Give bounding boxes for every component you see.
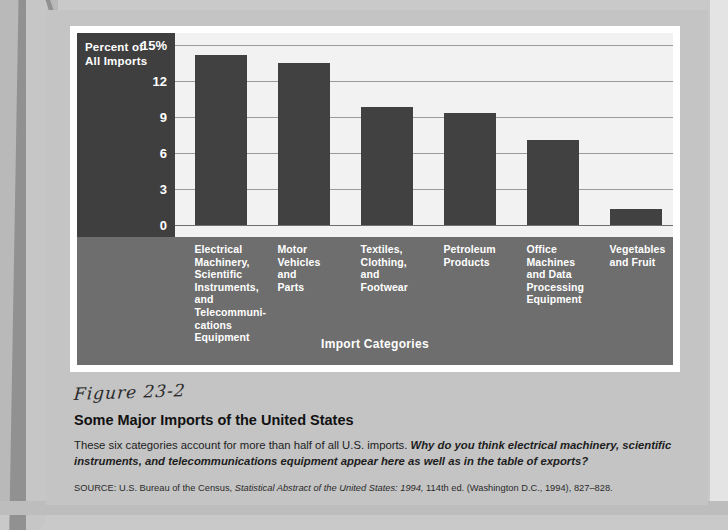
category-label-line: Electrical xyxy=(195,243,272,256)
gridline xyxy=(175,153,673,154)
y-axis-tick-12: 12 xyxy=(153,74,167,89)
gridline xyxy=(175,81,673,82)
bar-3 xyxy=(361,107,413,225)
gridline xyxy=(175,45,673,46)
category-label-line: and Data xyxy=(527,268,604,281)
y-axis-tick-6: 6 xyxy=(160,146,167,161)
source-suffix: 114th ed. (Washington D.C., 1994), 827–8… xyxy=(424,483,613,493)
category-label-line: Scientific xyxy=(195,268,272,281)
figure-source: SOURCE: U.S. Bureau of the Census, Stati… xyxy=(74,482,680,494)
category-label-line: and xyxy=(278,268,355,281)
source-prefix: SOURCE: U.S. Bureau of the Census, xyxy=(74,483,235,493)
category-label-line: Equipment xyxy=(527,293,604,306)
category-label-line: Office xyxy=(527,243,604,256)
page-right-margin xyxy=(710,0,728,515)
figure-caption: These six categories account for more th… xyxy=(74,438,680,469)
category-label-line: Instruments, xyxy=(195,281,272,294)
category-label-line: Machines xyxy=(527,256,604,269)
category-label-line: Vegetables xyxy=(610,243,674,256)
category-label-line: cations xyxy=(195,319,272,332)
bar-chart: Percent of All Imports 15%129630 Electri… xyxy=(77,33,673,365)
category-label-6: Vegetablesand Fruit xyxy=(610,243,674,268)
axis-baseline xyxy=(175,225,673,226)
category-label-1: ElectricalMachinery,ScientificInstrument… xyxy=(195,243,272,344)
category-label-2: MotorVehiclesandParts xyxy=(278,243,355,293)
y-axis-title-line-2: All Imports xyxy=(85,55,171,69)
category-label-line: Motor xyxy=(278,243,355,256)
gridline xyxy=(175,117,673,118)
category-label-line: and Fruit xyxy=(610,256,674,269)
category-label-line: and xyxy=(195,293,272,306)
y-axis-panel: Percent of All Imports 15%129630 xyxy=(77,33,175,237)
bar-5 xyxy=(527,140,579,225)
figure-number: Figure 23-2 xyxy=(73,380,186,404)
y-axis-tick-3: 3 xyxy=(160,182,167,197)
category-label-line: Vehicles xyxy=(278,256,355,269)
category-label-5: OfficeMachinesand DataProcessingEquipmen… xyxy=(527,243,604,306)
category-label-line: Petroleum xyxy=(444,243,521,256)
y-axis-tick-15: 15% xyxy=(141,38,167,53)
category-label-line: and xyxy=(361,268,438,281)
x-axis-title: Import Categories xyxy=(77,337,673,351)
chart-frame: Percent of All Imports 15%129630 Electri… xyxy=(70,26,680,372)
page-body: Percent of All Imports 15%129630 Electri… xyxy=(46,10,708,505)
source-title: Statistical Abstract of the United State… xyxy=(235,483,424,493)
plot-area xyxy=(175,33,673,237)
category-label-4: PetroleumProducts xyxy=(444,243,521,268)
bar-1 xyxy=(195,55,247,225)
category-label-line: Telecommuni- xyxy=(195,306,272,319)
y-axis-tick-0: 0 xyxy=(160,218,167,233)
category-label-line: Machinery, xyxy=(195,256,272,269)
bar-6 xyxy=(610,209,662,225)
page-surface: Percent of All Imports 15%129630 Electri… xyxy=(46,10,708,505)
category-label-line: Footwear xyxy=(361,281,438,294)
category-label-line: Parts xyxy=(278,281,355,294)
category-label-3: Textiles,Clothing,andFootwear xyxy=(361,243,438,293)
category-band: ElectricalMachinery,ScientificInstrument… xyxy=(77,237,673,365)
category-label-line: Clothing, xyxy=(361,256,438,269)
category-label-line: Products xyxy=(444,256,521,269)
bar-2 xyxy=(278,63,330,225)
y-axis-tick-9: 9 xyxy=(160,110,167,125)
category-label-line: Textiles, xyxy=(361,243,438,256)
caption-text: These six categories account for more th… xyxy=(74,439,411,451)
figure-title: Some Major Imports of the United States xyxy=(74,412,674,428)
bar-4 xyxy=(444,113,496,225)
category-label-line: Processing xyxy=(527,281,604,294)
gridline xyxy=(175,189,673,190)
